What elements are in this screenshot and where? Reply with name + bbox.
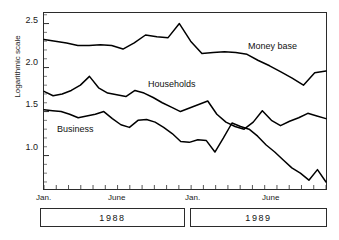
x-tick-label-jan-1988: Jan. xyxy=(36,193,51,202)
x-tick-marks xyxy=(44,185,326,189)
period-label-1989: 1989 xyxy=(245,213,271,223)
series-line-money-base xyxy=(44,24,326,86)
series-label-households: Households xyxy=(148,79,196,89)
series-label-money-base: Money base xyxy=(248,41,297,51)
chart-figure: Logarithmic scale 2.5 2.0 1.5 1.0 Money … xyxy=(0,0,339,240)
period-label-1988: 1988 xyxy=(99,213,125,223)
x-tick-label-june-1988: June xyxy=(108,193,125,202)
plot-area xyxy=(0,0,339,240)
x-tick-label-june-1989: June xyxy=(262,193,279,202)
period-box-1989: 1989 xyxy=(190,208,327,227)
period-box-1988: 1988 xyxy=(40,208,185,227)
x-tick-label-jan-1989: Jan. xyxy=(185,193,200,202)
series-line-business xyxy=(44,110,326,182)
series-label-business: Business xyxy=(57,124,94,134)
plot-frame xyxy=(44,13,327,190)
